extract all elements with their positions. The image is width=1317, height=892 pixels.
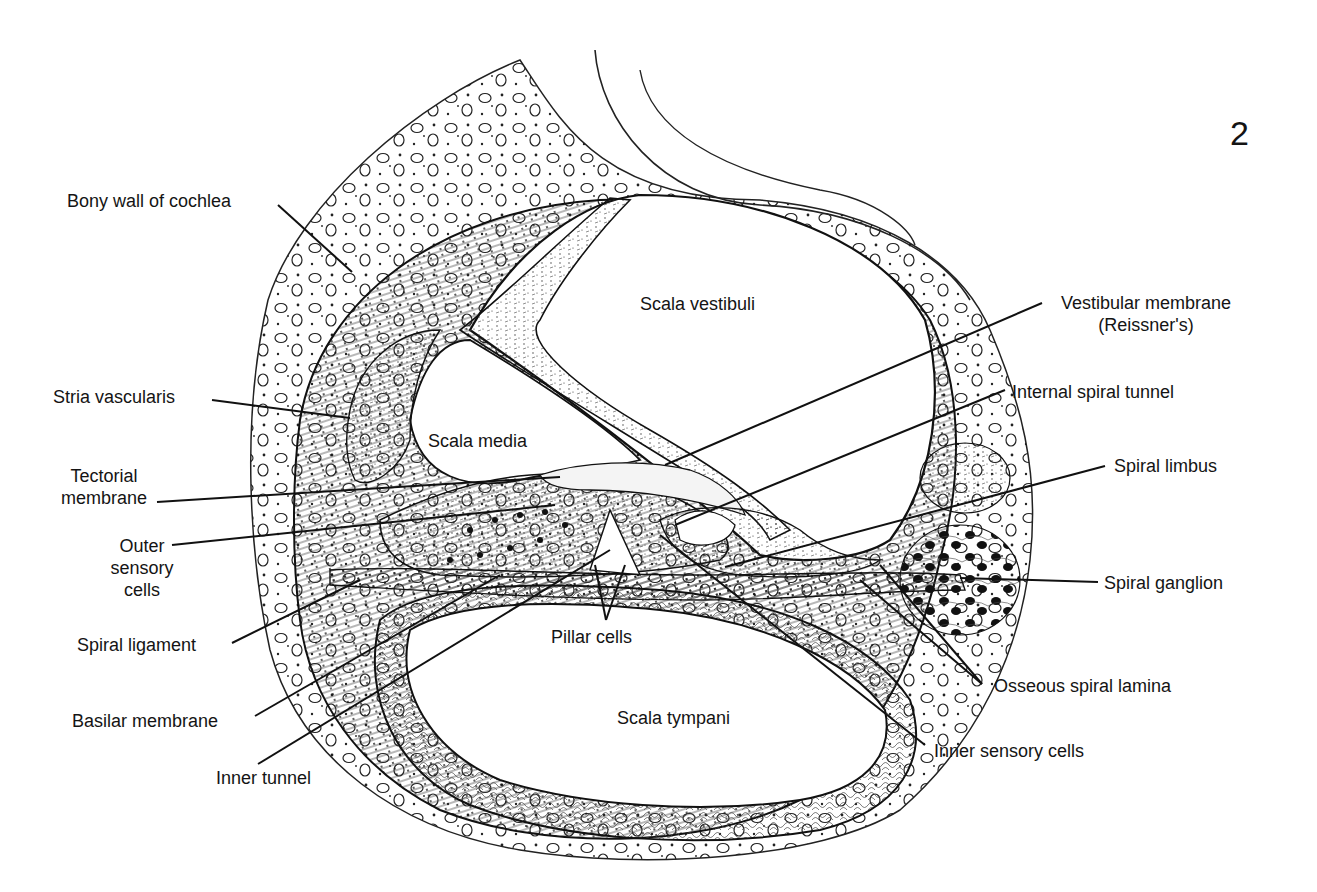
label-pillar-cells: Pillar cells [551,626,632,648]
label-spiral-ligament: Spiral ligament [77,634,196,656]
region-scala-tympani: Scala tympani [617,708,730,729]
label-line: Tectorial [52,465,156,487]
label-line: sensory [100,557,184,579]
label-line: membrane [52,487,156,509]
label-spiral-ganglion: Spiral ganglion [1104,572,1223,594]
label-internal-spiral-tunnel: Internal spiral tunnel [1012,381,1174,403]
label-line: Vestibular membrane [1048,292,1244,314]
label-inner-tunnel: Inner tunnel [216,767,311,789]
label-vestibular-membrane: Vestibular membrane (Reissner's) [1048,292,1244,336]
label-tectorial-membrane: Tectorial membrane [52,465,156,509]
label-inner-sensory-cells: Inner sensory cells [934,740,1084,762]
label-line: cells [100,579,184,601]
region-scala-media: Scala media [428,431,527,452]
label-line: Outer [100,535,184,557]
label-stria-vascularis: Stria vascularis [53,386,175,408]
label-osseous-spiral-lamina: Osseous spiral lamina [994,675,1171,697]
label-outer-sensory-cells: Outer sensory cells [100,535,184,601]
figure-number: 2 [1230,114,1249,153]
label-basilar-membrane: Basilar membrane [72,710,218,732]
label-line: (Reissner's) [1048,314,1244,336]
cochlea-cross-section-illustration [0,0,1317,892]
label-spiral-limbus: Spiral limbus [1114,455,1217,477]
label-bony-wall: Bony wall of cochlea [67,190,231,212]
region-scala-vestibuli: Scala vestibuli [640,294,755,315]
